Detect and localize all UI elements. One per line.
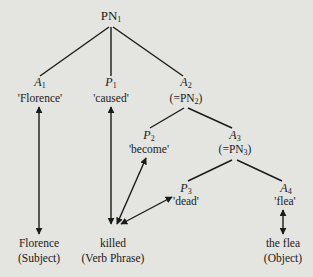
node-a2-sub: 2 <box>188 81 192 90</box>
surface-flea-role: (Object) <box>264 252 302 265</box>
arrow-p2-killed <box>117 158 146 224</box>
gloss-p2: 'become' <box>129 143 169 156</box>
gloss-a2-end: ) <box>199 92 203 104</box>
edge-pn1-a1 <box>40 27 109 76</box>
root-node-pn1: PN1 <box>101 9 122 26</box>
surface-killed-role: (Verb Phrase) <box>82 252 145 265</box>
gloss-a1: 'Florence' <box>18 92 62 105</box>
node-p1-sub: 1 <box>113 81 117 90</box>
arrow-p3-killed <box>121 197 172 224</box>
node-a2: A2 <box>180 76 191 92</box>
surface-florence-role: (Subject) <box>18 252 60 265</box>
node-a3-sub: 3 <box>237 134 241 143</box>
edge-a2-a3 <box>188 108 232 128</box>
edge-a3-a4 <box>237 160 282 181</box>
gloss-a3-text: (=PN <box>219 143 244 155</box>
root-sub: 1 <box>117 15 121 24</box>
tree-lines <box>0 0 313 277</box>
gloss-a2-text: (=PN <box>170 92 195 104</box>
gloss-p1: 'caused' <box>93 92 128 105</box>
edge-a3-p3 <box>188 160 232 181</box>
node-a1: A1 <box>34 76 45 92</box>
gloss-a3: (=PN3) <box>219 143 252 159</box>
surface-flea: the flea (Object) <box>264 237 302 265</box>
surface-flea-word: the flea <box>264 237 302 250</box>
edge-a2-p2 <box>150 108 184 128</box>
surface-killed: killed (Verb Phrase) <box>82 237 145 265</box>
gloss-p3: 'dead' <box>173 195 199 208</box>
edge-pn1-a2 <box>113 27 183 76</box>
gloss-a3-end: ) <box>248 143 252 155</box>
surface-florence: Florence (Subject) <box>18 237 60 265</box>
surface-killed-word: killed <box>82 237 145 250</box>
node-p1: P1 <box>105 76 116 92</box>
node-p2-sub: 2 <box>151 134 155 143</box>
root-label: PN <box>101 8 118 23</box>
gloss-a2: (=PN2) <box>170 92 203 108</box>
gloss-a4: 'flea' <box>274 195 295 208</box>
node-a1-sub: 1 <box>42 81 46 90</box>
surface-florence-word: Florence <box>18 237 60 250</box>
